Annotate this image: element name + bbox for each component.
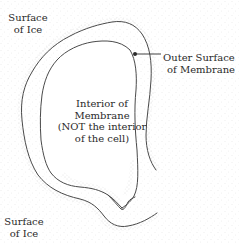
label-line: of Ice bbox=[7, 24, 49, 36]
label-line: Outer Surface bbox=[163, 52, 235, 64]
label-surface-of-ice-bottom: Surface of Ice bbox=[3, 216, 45, 239]
label-line: Interior of bbox=[57, 98, 147, 110]
label-outer-surface-of-membrane: Outer Surface of Membrane bbox=[163, 52, 235, 75]
freeze-fracture-membrane-diagram: Surface of Ice Outer Surface of Membrane… bbox=[0, 0, 239, 243]
label-line: of Membrane bbox=[163, 64, 235, 76]
label-line: of Ice bbox=[3, 228, 45, 240]
label-interior-of-membrane: Interior of Membrane (NOT the interior o… bbox=[57, 98, 147, 144]
label-line: Surface bbox=[3, 216, 45, 228]
label-line: of the cell) bbox=[57, 133, 147, 145]
label-line: Surface bbox=[7, 12, 49, 24]
label-line: (NOT the interior bbox=[57, 121, 147, 133]
label-surface-of-ice-top: Surface of Ice bbox=[7, 12, 49, 35]
label-line: Membrane bbox=[57, 110, 147, 122]
